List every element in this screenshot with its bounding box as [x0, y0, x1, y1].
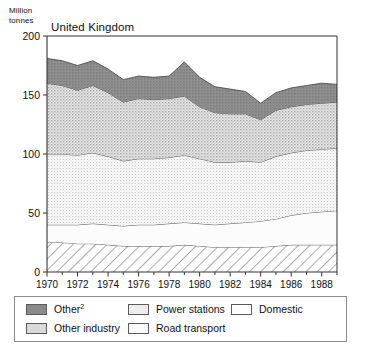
- y-tick-label: 50: [28, 207, 40, 219]
- y-tick-label: 0: [34, 266, 40, 278]
- x-tick-label: 1974: [97, 279, 120, 290]
- y-tick-label: 200: [22, 30, 40, 42]
- legend-label-domestic: Domestic: [259, 303, 303, 315]
- legend-item-other-industry: Other industry: [26, 322, 120, 334]
- x-tick-label: 1984: [250, 279, 273, 290]
- legend-item-road-transport: Road transport: [128, 322, 225, 334]
- area-band-domestic: [47, 243, 337, 273]
- x-tick-label: 1976: [127, 279, 150, 290]
- legend-label-other-industry: Other industry: [54, 322, 120, 334]
- domestic-swatch-icon: [231, 304, 252, 315]
- legend-item-domestic: Domestic: [231, 303, 303, 315]
- y-tick-label: 100: [22, 148, 40, 160]
- legend-label-road-transport: Road transport: [156, 322, 225, 334]
- x-tick-group: 1970197219741976197819801982198419861988: [36, 272, 337, 290]
- legend-label-other: Other2: [54, 303, 84, 315]
- area-bands-group: [47, 58, 337, 272]
- chart-figure: Milliontonnes United Kingdom: [0, 0, 365, 360]
- legend-label-power-stations: Power stations: [156, 303, 225, 315]
- legend-grid: Other2 Other industry Power stations Roa…: [15, 297, 346, 341]
- power-stations-swatch-icon: [128, 304, 149, 315]
- x-tick-label: 1982: [219, 279, 242, 290]
- stacked-area-plot: 050100150200 197019721974197619781980198…: [0, 0, 365, 300]
- road-transport-swatch-icon: [128, 323, 149, 334]
- chart-legend: Other2 Other industry Power stations Roa…: [14, 296, 347, 342]
- legend-item-other: Other2: [26, 303, 84, 315]
- area-band-power-stations: [47, 148, 337, 226]
- other-industry-swatch-icon: [26, 323, 47, 334]
- x-tick-label: 1972: [66, 279, 89, 290]
- x-tick-label: 1978: [158, 279, 181, 290]
- x-tick-label: 1986: [280, 279, 303, 290]
- legend-footnote-marker: 2: [80, 303, 84, 310]
- x-tick-label: 1970: [36, 279, 59, 290]
- legend-item-power-stations: Power stations: [128, 303, 225, 315]
- x-tick-label: 1988: [311, 279, 334, 290]
- y-tick-label: 150: [22, 89, 40, 101]
- y-tick-group: 050100150200: [22, 30, 47, 278]
- x-tick-label: 1980: [189, 279, 212, 290]
- other-swatch-icon: [26, 304, 47, 315]
